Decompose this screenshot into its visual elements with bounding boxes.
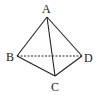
tetrahedron-diagram: A B C D xyxy=(0,0,100,99)
vertex-label-a: A xyxy=(42,2,51,16)
edge-bc xyxy=(17,56,55,76)
edge-ab xyxy=(17,17,47,56)
vertex-label-b: B xyxy=(6,50,14,64)
edge-ac xyxy=(47,17,55,76)
edge-ad xyxy=(47,17,82,56)
edge-cd xyxy=(55,56,82,76)
vertex-label-d: D xyxy=(84,51,93,65)
vertex-label-c: C xyxy=(51,80,59,94)
